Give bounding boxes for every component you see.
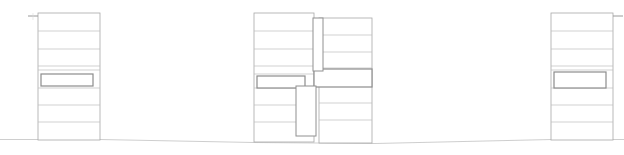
right-block-band-0: [554, 72, 606, 88]
left-block-band-0: [41, 74, 93, 86]
center-block-band-1: [314, 69, 372, 87]
right-block: [551, 13, 623, 140]
left-block: [28, 13, 100, 140]
elevation-drawing-canvas: [0, 0, 624, 155]
center-block-slab-0: [313, 18, 323, 71]
center-block: [254, 13, 372, 143]
elevation-svg: [0, 0, 624, 155]
center-block-slab-1: [296, 86, 316, 136]
